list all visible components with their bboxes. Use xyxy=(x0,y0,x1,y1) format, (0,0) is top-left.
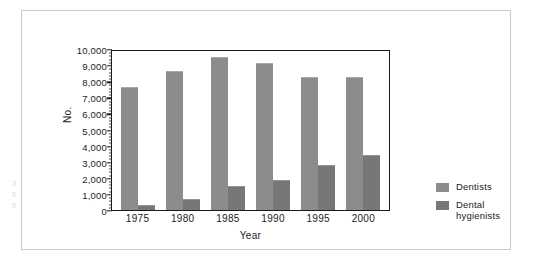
bars-layer xyxy=(112,51,389,210)
bar-dental-hygienists-1975 xyxy=(138,205,155,210)
bar-group xyxy=(121,51,155,210)
bar-group xyxy=(211,51,245,210)
bar-dentists-1980 xyxy=(166,71,183,210)
x-axis-tick-label: 1975 xyxy=(121,213,155,224)
y-axis-tick-label: 1,000 xyxy=(82,189,107,200)
legend-label-line-1: Dental xyxy=(456,199,485,210)
legend-item-dentists: Dentists xyxy=(436,181,528,192)
page-margin-marks: 3 5 0 xyxy=(2,178,16,230)
x-axis-tick-label: 1980 xyxy=(166,213,200,224)
chart-legend: Dentists Dentalhygienists xyxy=(436,181,528,228)
x-axis-tick-label: 1995 xyxy=(301,213,335,224)
legend-swatch-dental-hygienists xyxy=(436,201,449,210)
legend-label-line-2: hygienists xyxy=(456,210,500,221)
x-axis-title: Year xyxy=(111,230,390,241)
y-axis-tick-label: 6,000 xyxy=(82,109,107,120)
bar-dentists-1995 xyxy=(301,77,318,211)
x-axis-tick-label: 1985 xyxy=(211,213,245,224)
figure-frame: No. 01,0002,0003,0004,0005,0006,0007,000… xyxy=(21,10,511,250)
bar-group xyxy=(301,51,335,210)
margin-mark-2: 5 xyxy=(2,189,16,200)
legend-item-dental-hygienists: Dentalhygienists xyxy=(436,199,528,221)
bar-dental-hygienists-1980 xyxy=(183,199,200,210)
legend-swatch-dentists xyxy=(436,183,449,192)
margin-mark-1: 3 xyxy=(2,178,16,189)
bar-dentists-1990 xyxy=(256,63,273,210)
bar-dental-hygienists-1990 xyxy=(273,180,290,210)
bar-group xyxy=(256,51,290,210)
y-axis-tick-label: 4,000 xyxy=(82,141,107,152)
y-axis-tick-label: 8,000 xyxy=(82,77,107,88)
legend-label-dentists: Dentists xyxy=(456,181,492,192)
margin-mark-3: 0 xyxy=(2,200,16,211)
bar-dental-hygienists-1995 xyxy=(318,165,335,210)
plot-area xyxy=(111,50,390,211)
y-axis: 01,0002,0003,0004,0005,0006,0007,0008,00… xyxy=(62,44,111,217)
bar-dentists-1975 xyxy=(121,87,138,210)
legend-label-dental-hygienists: Dentalhygienists xyxy=(456,199,500,221)
y-axis-tick-label: 3,000 xyxy=(82,157,107,168)
bar-dental-hygienists-2000 xyxy=(363,155,380,210)
bar-group xyxy=(346,51,380,210)
x-axis: 197519801985199019952000 xyxy=(111,213,390,229)
y-axis-tick-label: 10,000 xyxy=(77,45,107,56)
y-axis-tick-label: 7,000 xyxy=(82,93,107,104)
x-axis-tick-label: 2000 xyxy=(346,213,380,224)
bar-dentists-1985 xyxy=(211,57,228,210)
bar-dentists-2000 xyxy=(346,77,363,210)
bar-dental-hygienists-1985 xyxy=(228,186,245,210)
y-axis-tick-label: 9,000 xyxy=(82,61,107,72)
x-axis-tick-label: 1990 xyxy=(256,213,290,224)
y-axis-tick-label: 5,000 xyxy=(82,125,107,136)
y-axis-tick-label: 2,000 xyxy=(82,173,107,184)
bar-group xyxy=(166,51,200,210)
